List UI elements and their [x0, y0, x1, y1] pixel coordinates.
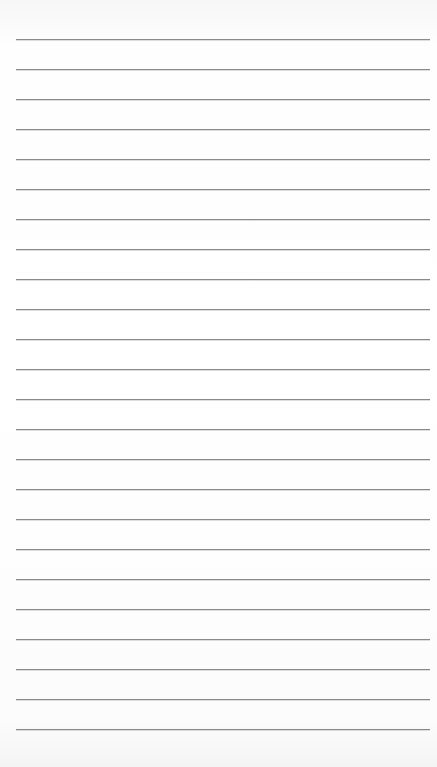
- ruled-line: [16, 429, 430, 430]
- ruled-line: [16, 669, 430, 670]
- ruled-line: [16, 609, 430, 610]
- ruled-line: [16, 219, 430, 220]
- ruled-line: [16, 249, 430, 250]
- ruled-line: [16, 69, 430, 70]
- ruled-line: [16, 579, 430, 580]
- ruled-line: [16, 189, 430, 190]
- ruled-line: [16, 519, 430, 520]
- ruled-line: [16, 639, 430, 640]
- ruled-line: [16, 699, 430, 700]
- ruled-line: [16, 459, 430, 460]
- ruled-line: [16, 339, 430, 340]
- ruled-line: [16, 279, 430, 280]
- ruled-line: [16, 369, 430, 370]
- ruled-line: [16, 399, 430, 400]
- ruled-line: [16, 309, 430, 310]
- ruled-line: [16, 99, 430, 100]
- ruled-line: [16, 129, 430, 130]
- ruled-line: [16, 549, 430, 550]
- ruled-line: [16, 159, 430, 160]
- ruled-line: [16, 729, 430, 730]
- ruled-line: [16, 39, 430, 40]
- lined-paper-sheet: [0, 0, 437, 767]
- ruled-line: [16, 489, 430, 490]
